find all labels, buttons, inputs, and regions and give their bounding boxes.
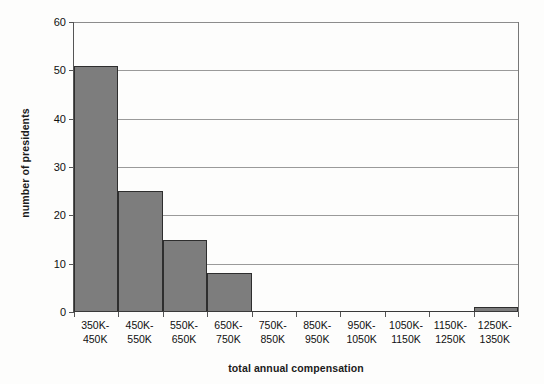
bar-450K-550K[interactable] [118,191,162,312]
y-axis-tick-label: 40 [54,113,66,125]
x-axis-tick-label-line2: 1350K [473,332,517,346]
x-axis-tick-label: 1050K-1150K [384,318,428,346]
x-axis-title: total annual compensation [73,362,519,374]
y-axis-tick-label: 60 [54,16,66,28]
x-axis-tick-mark [385,312,386,317]
x-axis-tick-mark [340,312,341,317]
x-axis-tick-label: 950K-1050K [339,318,383,346]
x-axis-tick-label-line1: 750K- [251,318,295,332]
histogram-chart: number of presidents 0102030405060 350K-… [0,0,544,384]
x-axis-tick-mark [207,312,208,317]
bar-350K-450K[interactable] [74,66,118,313]
bar-550K-650K[interactable] [163,240,207,313]
x-axis-tick-mark [74,312,75,317]
x-axis-tick-label-line1: 850K- [295,318,339,332]
x-axis-tick-label: 750K-850K [251,318,295,346]
x-axis-tick-label-line2: 850K [251,332,295,346]
x-axis-tick-label-line1: 550K- [162,318,206,332]
y-axis-tick-label: 30 [54,161,66,173]
x-axis-tick-mark [118,312,119,317]
x-axis-tick-label-line1: 450K- [117,318,161,332]
x-axis-tick-label-line2: 1250K [428,332,472,346]
bars-group [74,22,518,312]
y-axis-title-text: number of presidents [19,108,31,217]
x-axis-line [74,311,518,312]
y-axis-tick-label: 50 [54,64,66,76]
x-axis-tick-label-line2: 950K [295,332,339,346]
x-axis-tick-label: 350K-450K [73,318,117,346]
x-axis-tick-label: 650K-750K [206,318,250,346]
y-axis-tick-label: 10 [54,258,66,270]
y-axis-title: number of presidents [16,88,34,238]
x-axis-tick-label-line1: 950K- [339,318,383,332]
x-axis-tick-label: 550K-650K [162,318,206,346]
x-axis-tick-mark [474,312,475,317]
x-axis-tick-label: 1150K-1250K [428,318,472,346]
x-axis-tick-label-line2: 1150K [384,332,428,346]
x-axis-tick-mark [518,312,519,317]
x-axis-tick-label: 850K-950K [295,318,339,346]
y-axis-tick-label: 0 [60,306,66,318]
x-axis-tick-label-line2: 750K [206,332,250,346]
x-axis-tick-label-line2: 650K [162,332,206,346]
x-axis-tick-label-line2: 1050K [339,332,383,346]
x-axis-tick-labels: 350K-450K450K-550K550K-650K650K-750K750K… [73,318,519,356]
plot-area: 0102030405060 [73,22,519,312]
x-axis-tick-mark [429,312,430,317]
x-axis-tick-label: 1250K-1350K [473,318,517,346]
x-axis-tick-label-line2: 450K [73,332,117,346]
x-axis-tick-label-line1: 1050K- [384,318,428,332]
x-axis-tick-label-line1: 650K- [206,318,250,332]
x-axis-tick-label-line1: 350K- [73,318,117,332]
bar-650K-750K[interactable] [207,273,251,312]
x-axis-tick-label-line1: 1250K- [473,318,517,332]
y-axis-tick-label: 20 [54,209,66,221]
x-axis-tick-label: 450K-550K [117,318,161,346]
x-axis-tick-mark [252,312,253,317]
x-axis-tick-label-line2: 550K [117,332,161,346]
x-axis-tick-mark [296,312,297,317]
x-axis-tick-label-line1: 1150K- [428,318,472,332]
x-axis-tick-mark [163,312,164,317]
